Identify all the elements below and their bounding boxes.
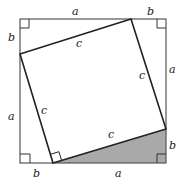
right-angle-marker-top-left <box>20 19 29 28</box>
label-right-a: a <box>169 63 176 76</box>
label-left-b: b <box>8 31 15 44</box>
label-c-bottom: c <box>108 128 114 141</box>
label-c-left: c <box>41 104 47 117</box>
label-top-b: b <box>147 5 154 18</box>
label-c-top: c <box>76 37 82 50</box>
label-right-b: b <box>169 139 176 152</box>
right-angle-marker-bottom-left <box>20 154 30 163</box>
label-bottom-b: b <box>33 167 40 180</box>
label-bottom-a: a <box>115 167 122 180</box>
label-top-a: a <box>72 5 79 18</box>
label-left-a: a <box>8 110 15 123</box>
label-c-right: c <box>139 69 145 82</box>
pythagorean-diagram: a b b a a b b a c c c c <box>0 0 192 188</box>
right-angle-marker-top-right <box>157 19 166 28</box>
